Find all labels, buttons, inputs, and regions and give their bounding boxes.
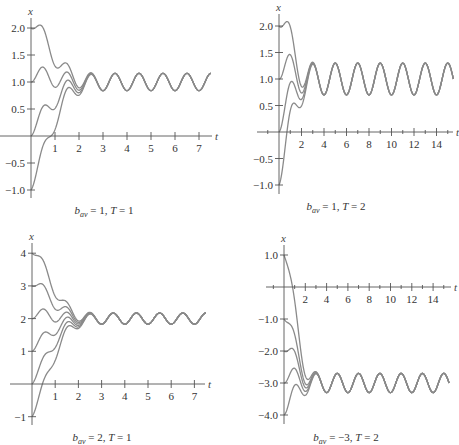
x-tick-label: 12 — [406, 293, 417, 305]
solution-curve — [284, 255, 449, 393]
solution-curve — [31, 67, 211, 91]
y-tick-label: 2.0 — [259, 20, 273, 32]
y-tick-label: −0.5 — [5, 157, 25, 169]
axes: 24681012142.01.51.00.5−0.5−1.0txbav = 1,… — [253, 1, 459, 215]
solution-curve — [284, 319, 449, 393]
y-tick-label: −4.0 — [258, 409, 278, 421]
chart-figure: 12345672.01.51.00.5−0.5−1.0txbav = 1, T … — [0, 0, 459, 445]
x-tick-label: 2 — [76, 142, 82, 154]
y-tick-label: −3.0 — [258, 377, 278, 389]
panel-caption: bav = 1, T = 1 — [74, 204, 133, 219]
y-tick-label: 4 — [21, 247, 27, 259]
solution-curve — [32, 313, 206, 417]
y-tick-label: 1.0 — [264, 249, 278, 261]
x-axis-label: x — [280, 232, 286, 244]
x-tick-label: 5 — [148, 142, 154, 154]
x-tick-label: 2 — [303, 293, 309, 305]
t-axis-label: t — [208, 378, 212, 390]
x-axis-label: x — [275, 1, 281, 13]
solution-curve — [31, 73, 211, 190]
t-axis-label: t — [454, 281, 458, 293]
y-tick-label: 1.0 — [259, 73, 273, 85]
solution-curve — [279, 63, 453, 132]
y-tick-label: 1 — [21, 345, 27, 357]
x-tick-label: 6 — [344, 138, 350, 150]
y-tick-label: 0.5 — [259, 100, 273, 112]
x-tick-label: 5 — [145, 390, 151, 402]
x-tick-label: 4 — [124, 142, 130, 154]
x-tick-label: 14 — [431, 138, 443, 150]
x-tick-label: 7 — [196, 142, 202, 154]
x-tick-label: 2 — [76, 390, 82, 402]
y-tick-label: 2 — [21, 313, 27, 325]
x-tick-label: 3 — [100, 142, 106, 154]
panel-caption: bav = −3, T = 2 — [313, 431, 378, 445]
y-tick-label: 0.5 — [11, 103, 25, 115]
x-tick-label: 7 — [192, 390, 198, 402]
panel-bm3-T2: 24681012141.0−1.0−2.0−3.0−4.0txbav = −3,… — [258, 232, 458, 445]
y-tick-label: −1.0 — [258, 313, 278, 325]
y-tick-label: 2.0 — [11, 22, 25, 34]
x-tick-label: 1 — [52, 390, 58, 402]
y-tick-label: 1.5 — [259, 47, 273, 59]
x-tick-label: 4 — [122, 390, 128, 402]
x-tick-label: 6 — [172, 142, 178, 154]
x-tick-label: 14 — [428, 293, 440, 305]
x-tick-label: 10 — [385, 293, 397, 305]
solution-curves — [279, 22, 453, 185]
panel-b1-T2: 24681012142.01.51.00.5−0.5−1.0txbav = 1,… — [253, 1, 459, 215]
x-axis-label: x — [27, 5, 33, 17]
y-tick-label: −1.0 — [253, 179, 273, 191]
panel-caption: bav = 1, T = 2 — [306, 200, 365, 215]
y-tick-label: 1.5 — [11, 49, 25, 61]
x-tick-label: 2 — [299, 138, 305, 150]
x-tick-label: 8 — [366, 138, 372, 150]
solution-curves — [284, 255, 449, 415]
solution-curve — [32, 253, 206, 324]
y-tick-label: 3 — [21, 280, 27, 292]
solution-curve — [32, 313, 206, 384]
y-tick-label: −1.0 — [5, 184, 25, 196]
y-tick-label: 1.0 — [11, 76, 25, 88]
y-tick-label: −0.5 — [253, 153, 273, 165]
y-tick-label: −1 — [14, 411, 26, 423]
x-tick-label: 8 — [366, 293, 372, 305]
x-tick-label: 4 — [324, 293, 330, 305]
solution-curves — [31, 25, 211, 190]
solution-curve — [32, 309, 206, 324]
panel-caption: bav = 2, T = 1 — [72, 431, 131, 445]
panel-b1-T1: 12345672.01.51.00.5−0.5−1.0txbav = 1, T … — [0, 5, 219, 219]
x-tick-label: 3 — [99, 390, 105, 402]
x-axis-label: x — [28, 230, 34, 242]
x-tick-label: 12 — [409, 138, 420, 150]
x-tick-label: 6 — [168, 390, 174, 402]
x-tick-label: 6 — [345, 293, 351, 305]
x-tick-label: 10 — [386, 138, 398, 150]
x-tick-label: 1 — [52, 142, 58, 154]
panel-b2-T1: 12345674321−1txbav = 2, T = 1 — [10, 230, 212, 445]
axes: 24681012141.0−1.0−2.0−3.0−4.0txbav = −3,… — [258, 232, 458, 445]
x-tick-label: 4 — [321, 138, 327, 150]
y-tick-label: −2.0 — [258, 345, 278, 357]
solution-curves — [32, 253, 206, 417]
t-axis-label: t — [215, 130, 219, 142]
